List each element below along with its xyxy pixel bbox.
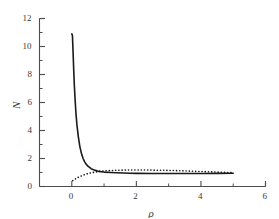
x-tick-label: 6 (263, 192, 268, 201)
x-tick-label: 4 (198, 192, 203, 201)
y-tick-label: 4 (28, 126, 33, 135)
y-tick-label: 0 (28, 182, 33, 191)
x-tick-label: 0 (69, 192, 74, 201)
y-tick-label: 2 (28, 154, 33, 163)
series-dotted-curve (73, 170, 233, 181)
figure-container: 0246 024681012 N ρ (0, 0, 279, 218)
y-tick-label: 8 (28, 70, 33, 79)
x-tick-label: 2 (133, 192, 138, 201)
y-axis-label: N (10, 101, 22, 108)
y-tick-label: 10 (23, 42, 32, 51)
y-tick-label: 12 (23, 14, 32, 23)
series-solid-curve (72, 34, 233, 174)
data-series-group (72, 34, 233, 181)
plot-canvas (0, 0, 279, 218)
x-axis-label: ρ (149, 207, 154, 219)
y-tick-label: 6 (28, 98, 33, 107)
